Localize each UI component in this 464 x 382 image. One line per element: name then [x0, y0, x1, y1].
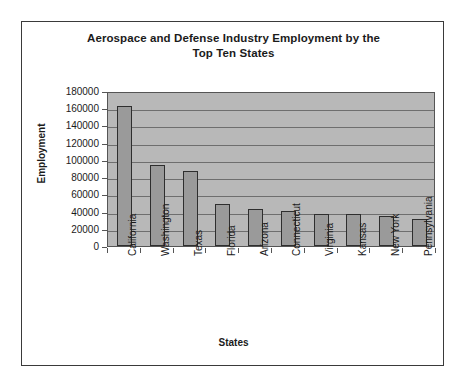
x-axis-category-label: Pennsylvania: [424, 197, 434, 256]
x-axis-category-label: Virginia: [325, 223, 335, 256]
x-axis-category-label: Connecticut: [292, 203, 302, 256]
x-axis-category-label: Arizona: [260, 222, 270, 256]
y-axis-tick-label: 160000: [33, 104, 99, 114]
y-axis-tick-label: 140000: [33, 121, 99, 131]
x-axis-tick-mark: [173, 248, 174, 253]
y-axis-tick-label: 180000: [33, 87, 99, 97]
y-axis-tick-label: 80000: [33, 173, 99, 183]
chart-title: Aerospace and Defense Industry Employmen…: [22, 31, 445, 61]
y-axis-tick-label: 100000: [33, 156, 99, 166]
x-axis-category-label: Washington: [161, 204, 171, 256]
x-axis-category-label: New York: [391, 214, 401, 256]
y-axis-tick-label: 120000: [33, 139, 99, 149]
bar-series-employment: [108, 93, 434, 246]
x-axis-category-label: California: [128, 214, 138, 256]
plot-area: [107, 92, 435, 247]
x-axis-tick-mark: [369, 248, 370, 253]
chart-title-line-2: Top Ten States: [22, 46, 445, 61]
chart-title-line-1: Aerospace and Defense Industry Employmen…: [87, 32, 380, 44]
y-axis-tick-label: 0: [33, 242, 99, 252]
x-axis-category-label: Florida: [227, 225, 237, 256]
x-axis-tick-mark: [271, 248, 272, 253]
x-axis-tick-mark: [304, 248, 305, 253]
chart-frame: Aerospace and Defense Industry Employmen…: [21, 21, 444, 366]
y-axis-tick-label: 20000: [33, 225, 99, 235]
x-axis-tick-mark: [435, 248, 436, 253]
x-axis-category-label: Kansas: [358, 223, 368, 256]
x-axis-title: States: [22, 337, 445, 348]
x-axis-tick-mark: [402, 248, 403, 253]
x-axis-tick-mark: [205, 248, 206, 253]
x-axis-tick-mark: [107, 248, 108, 253]
x-axis-tick-mark: [238, 248, 239, 253]
y-axis-tick-label: 60000: [33, 190, 99, 200]
x-axis-tick-mark: [337, 248, 338, 253]
x-axis-tick-mark: [140, 248, 141, 253]
x-axis-category-label: Texas: [194, 230, 204, 256]
y-axis-tick-label: 40000: [33, 208, 99, 218]
